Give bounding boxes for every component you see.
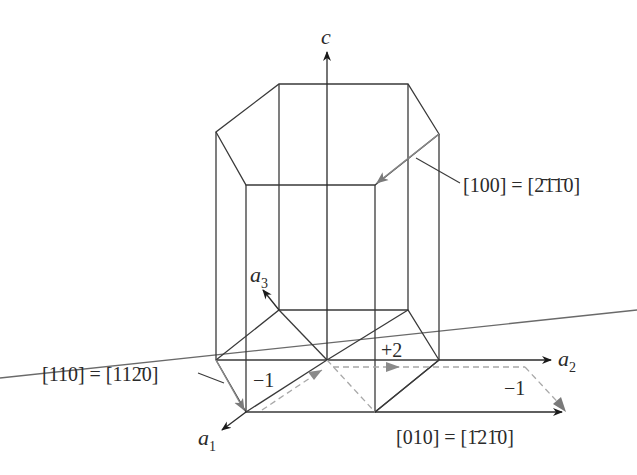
a3-axis-label: a3 <box>250 262 268 291</box>
c-axis-label: c <box>321 24 331 49</box>
component-minus1-right: −1 <box>504 377 525 399</box>
dashed-arrowhead-2 <box>386 362 400 372</box>
direction-110-arrow <box>216 360 244 410</box>
component-plus2: +2 <box>381 339 402 361</box>
a2-axis-label: a2 <box>558 346 576 375</box>
direction-110-leader <box>198 373 224 383</box>
direction-100-leader <box>416 158 460 183</box>
direction-010-label: [010] = [1̄21̄0] <box>396 426 514 448</box>
direction-110-label: [110] = [112̄0] <box>42 363 158 385</box>
a3-axis <box>263 290 279 310</box>
bottom-hexagon-front <box>216 360 439 412</box>
a1-axis <box>222 412 246 430</box>
direction-100-label: [100] = [2̄1̄1̄0] <box>463 174 580 196</box>
component-minus1-left: −1 <box>253 369 274 391</box>
a1-axis-label: a1 <box>198 425 216 454</box>
hexagonal-crystal-diagram: c a1 a2 a3 [100] = [2̄1̄1̄0] [110] = [11… <box>0 0 637 475</box>
